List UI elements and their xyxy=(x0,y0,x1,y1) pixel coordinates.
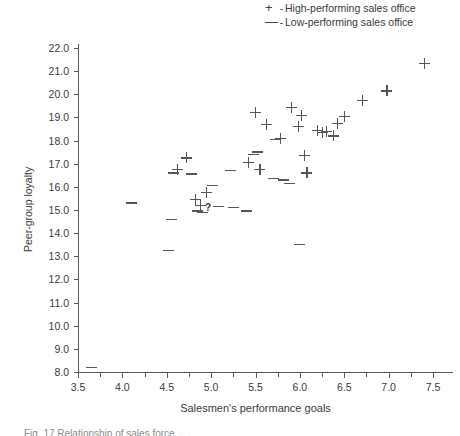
x-axis-line xyxy=(78,372,453,373)
y-axis-tick-label: 10.0 xyxy=(0,320,69,332)
data-point-plus xyxy=(250,107,261,118)
x-axis-tick-label: 5.5 xyxy=(236,381,276,393)
data-point-dash xyxy=(284,183,295,184)
y-axis-tick-label: 22.0 xyxy=(0,42,69,54)
x-axis-minor-tick xyxy=(100,373,101,377)
figure-caption: Fig. 17 Relationship of sales force ... xyxy=(24,428,186,436)
data-point-plus xyxy=(201,187,212,198)
y-axis-tick xyxy=(74,210,78,211)
y-axis-tick-label: 20.0 xyxy=(0,88,69,100)
data-point-plus xyxy=(296,110,307,121)
data-point-plus xyxy=(339,111,350,122)
data-point-dash xyxy=(163,250,174,251)
y-axis-tick xyxy=(74,164,78,165)
data-point-dash xyxy=(225,170,236,171)
y-axis-tick xyxy=(74,48,78,49)
x-axis-tick-label: 6.5 xyxy=(324,381,364,393)
data-point-dash xyxy=(241,210,252,211)
y-axis-tick-label: 15.0 xyxy=(0,204,69,216)
x-axis-minor-tick xyxy=(189,373,190,377)
data-point-dash xyxy=(228,207,239,208)
data-point-plus xyxy=(243,157,254,168)
data-point-plus xyxy=(286,102,297,113)
x-axis-tick xyxy=(211,373,212,378)
data-point-dash xyxy=(166,219,177,220)
y-axis-tick-label: 14.0 xyxy=(0,227,69,239)
data-point-dash xyxy=(270,139,281,140)
y-axis-tick-label: 17.0 xyxy=(0,158,69,170)
x-axis-tick-label: 5.0 xyxy=(191,381,231,393)
y-axis-tick-label: 16.0 xyxy=(0,181,69,193)
data-point-dash xyxy=(248,154,259,155)
y-axis-tick xyxy=(74,94,78,95)
x-axis-minor-tick xyxy=(366,373,367,377)
x-axis-tick-label: 4.5 xyxy=(147,381,187,393)
x-axis-tick xyxy=(344,373,345,378)
y-axis-tick xyxy=(74,187,78,188)
data-point-dash xyxy=(294,244,305,245)
x-axis-tick xyxy=(389,373,390,378)
data-point-plus xyxy=(328,130,339,141)
data-point-plus xyxy=(293,121,304,132)
data-point-plus xyxy=(181,152,192,163)
x-axis-tick-label: 4.0 xyxy=(102,381,142,393)
x-axis-tick xyxy=(433,373,434,378)
data-point-dash xyxy=(192,210,203,211)
y-axis-tick xyxy=(74,303,78,304)
y-axis-line xyxy=(78,44,79,372)
x-axis-tick xyxy=(167,373,168,378)
x-axis-tick xyxy=(122,373,123,378)
y-axis-tick-label: 8.0 xyxy=(0,366,69,378)
data-point-plus xyxy=(190,194,201,205)
data-point-plus xyxy=(172,164,183,175)
data-point-plus xyxy=(419,58,430,69)
y-axis-tick xyxy=(74,233,78,234)
x-axis-tick-label: 7.0 xyxy=(369,381,409,393)
y-axis-tick xyxy=(74,141,78,142)
x-axis-minor-tick xyxy=(145,373,146,377)
data-point-plus xyxy=(357,95,368,106)
x-axis-minor-tick xyxy=(233,373,234,377)
x-axis-tick-label: 3.5 xyxy=(58,381,98,393)
y-axis-tick-label: 9.0 xyxy=(0,343,69,355)
x-axis-tick-label: 7.5 xyxy=(413,381,453,393)
data-point-dash xyxy=(252,151,263,152)
x-axis-minor-tick xyxy=(411,373,412,377)
data-point-plus xyxy=(299,150,310,161)
y-axis-tick-label: 18.0 xyxy=(0,135,69,147)
y-axis-tick-label: 19.0 xyxy=(0,111,69,123)
question-mark-annotation: ? xyxy=(205,202,211,213)
data-point-dash xyxy=(86,367,97,368)
data-point-plus xyxy=(312,125,323,136)
y-axis-tick xyxy=(74,256,78,257)
y-axis-tick-label: 13.0 xyxy=(0,250,69,262)
data-point-dash xyxy=(213,206,224,207)
data-point-dash xyxy=(168,172,179,173)
data-point-dash xyxy=(278,179,289,180)
x-axis-tick xyxy=(256,373,257,378)
data-point-plus xyxy=(317,127,328,138)
data-point-plus xyxy=(381,85,392,96)
x-axis-tick-label: 6.0 xyxy=(280,381,320,393)
y-axis-tick-label: 11.0 xyxy=(0,297,69,309)
data-point-plus xyxy=(275,133,286,144)
y-axis-tick xyxy=(74,326,78,327)
data-point-plus xyxy=(321,126,332,137)
x-axis-minor-tick xyxy=(322,373,323,377)
data-point-plus xyxy=(301,167,312,178)
x-axis-title-text: Salesmen's performance goals xyxy=(176,402,336,414)
x-axis-minor-tick xyxy=(278,373,279,377)
y-axis-tick xyxy=(74,349,78,350)
data-point-dash xyxy=(268,178,279,179)
data-point-plus xyxy=(332,118,343,129)
data-point-dash xyxy=(207,185,218,186)
x-axis-tick xyxy=(78,373,79,378)
y-axis-tick-label: 12.0 xyxy=(0,273,69,285)
y-axis-tick xyxy=(74,279,78,280)
y-axis-tick xyxy=(74,71,78,72)
y-axis-tick-label: 21.0 xyxy=(0,65,69,77)
x-axis-tick xyxy=(300,373,301,378)
y-axis-tick xyxy=(74,117,78,118)
